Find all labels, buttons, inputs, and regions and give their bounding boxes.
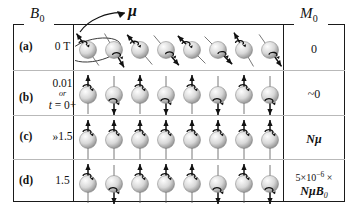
magnetization-line: 0 [311,42,317,56]
magnetization-line: NμB0 [283,184,345,201]
spin-row-slight-excess [75,160,283,206]
magnetization-value-cell: Nμ [283,132,345,146]
header-b0: B0 [30,5,45,24]
row-label-d: (d) [13,174,39,186]
spin-row-alternating [75,71,283,117]
header-m0-subscript: 0 [313,13,318,24]
magnetization-line: 5×10−6 × [283,170,345,184]
magnetization-line: ~0 [308,87,321,101]
row-label-c: (c) [13,130,39,142]
magnetization-line: Nμ [306,132,321,146]
magnetization-value-cell: ~0 [283,87,345,101]
row-label-a: (a) [13,40,39,52]
magnetization-value-cell: 5×10−6 ×NμB0 [283,170,345,201]
row-label-b: (b) [13,91,39,103]
header-b0-symbol: B [30,5,39,21]
spin-row-aligned [75,116,283,162]
header-m0: M0 [300,5,318,24]
spin-magnetization-figure: B0 M0 μ (a)0 T0(b)0.01ort = 0+~0(c)»1.5N… [0,0,358,217]
header-m0-symbol: M [300,5,313,21]
header-b0-subscript: 0 [39,13,44,24]
magnetization-value-cell: 0 [283,42,345,56]
spin-row-random [75,26,283,72]
